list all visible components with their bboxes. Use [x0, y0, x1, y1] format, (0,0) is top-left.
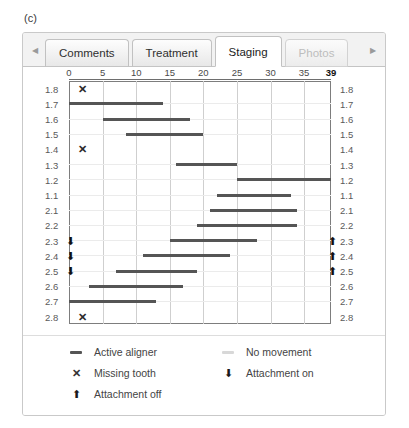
legend-item: Active aligner: [65, 345, 217, 359]
tooth-label-left: 2.7: [45, 296, 58, 307]
tooth-label-right: 1.2: [340, 174, 353, 185]
x-tick-label: 39: [326, 67, 337, 78]
attachment-off-arrow-icon: ⬆: [65, 389, 87, 400]
triangle-left-icon[interactable]: ◀: [25, 34, 45, 66]
x-tick-label: 20: [198, 67, 209, 78]
legend-item: ⬇Attachment on: [217, 366, 369, 380]
legend-item: No movement: [217, 345, 369, 359]
missing-tooth-icon: ✕: [78, 311, 87, 322]
tab-bar: ◀ CommentsTreatmentStagingPhotos ▶: [23, 33, 385, 67]
tooth-label-right: 1.3: [340, 159, 353, 170]
x-tick-label: 15: [164, 67, 175, 78]
active-aligner-bar: [210, 209, 297, 212]
tooth-label-right: 2.4: [340, 250, 353, 261]
tooth-label-right: 2.5: [340, 266, 353, 277]
tab-treatment[interactable]: Treatment: [132, 39, 212, 67]
tab-label: Treatment: [146, 47, 198, 59]
tooth-label-left: 2.6: [45, 281, 58, 292]
tooth-label-left: 2.2: [45, 220, 58, 231]
tooth-label-left: 1.3: [45, 159, 58, 170]
legend-label: Missing tooth: [94, 367, 156, 379]
x-tick-label: 5: [100, 67, 105, 78]
tooth-label-right: 2.3: [340, 235, 353, 246]
x-tick-label: 35: [299, 67, 310, 78]
figure-root: (c) ◀ CommentsTreatmentStagingPhotos ▶ 0…: [0, 0, 409, 428]
tooth-label-left: 1.6: [45, 114, 58, 125]
tooth-label-right: 1.7: [340, 98, 353, 109]
attachment-on-arrow-icon: ⬇: [66, 235, 75, 246]
no-movement-track: [69, 271, 331, 272]
active-aligner-bar: [176, 163, 236, 166]
tooth-label-right: 2.2: [340, 220, 353, 231]
attachment-off-arrow-icon: ⬆: [328, 266, 337, 277]
tab-list: CommentsTreatmentStagingPhotos: [45, 34, 363, 66]
vertical-gridline: [271, 81, 272, 324]
tooth-label-left: 1.8: [45, 83, 58, 94]
active-aligner-swatch-icon: [65, 351, 87, 354]
x-tick-label: 10: [131, 67, 142, 78]
chart-legend: Active alignerNo movement✕Missing tooth⬇…: [23, 335, 385, 413]
active-aligner-bar: [103, 118, 190, 121]
vertical-gridline: [237, 81, 238, 324]
tooth-label-right: 2.6: [340, 281, 353, 292]
legend-label: Active aligner: [94, 346, 157, 358]
missing-tooth-icon: ✕: [78, 83, 87, 94]
tooth-label-left: 1.4: [45, 144, 58, 155]
x-tick-label: 30: [265, 67, 276, 78]
tooth-label-right: 2.7: [340, 296, 353, 307]
active-aligner-bar: [237, 178, 331, 181]
vertical-gridline: [203, 81, 204, 324]
tooth-label-left: 1.2: [45, 174, 58, 185]
tab-comments[interactable]: Comments: [45, 39, 129, 67]
active-aligner-bar: [69, 102, 163, 105]
attachment-off-arrow-icon: ⬆: [328, 235, 337, 246]
tooth-label-left: 2.5: [45, 266, 58, 277]
tab-photos[interactable]: Photos: [285, 39, 349, 67]
tooth-label-left: 1.1: [45, 190, 58, 201]
tab-label: Staging: [229, 46, 268, 58]
tooth-label-left: 1.5: [45, 129, 58, 140]
tooth-label-right: 1.8: [340, 83, 353, 94]
active-aligner-bar: [126, 133, 203, 136]
no-movement-swatch-icon: [217, 351, 239, 354]
tooth-label-left: 2.4: [45, 250, 58, 261]
tooth-label-right: 2.8: [340, 311, 353, 322]
tooth-label-right: 1.6: [340, 114, 353, 125]
vertical-gridline: [304, 81, 305, 324]
tooth-label-right: 1.5: [340, 129, 353, 140]
tooth-label-right: 1.4: [340, 144, 353, 155]
missing-tooth-icon: ✕: [65, 368, 87, 379]
staging-content: 0510152025303539✕1.81.81.71.71.61.61.51.…: [23, 67, 385, 415]
active-aligner-bar: [143, 254, 230, 257]
tooth-label-right: 2.1: [340, 205, 353, 216]
attachment-on-arrow-icon: ⬇: [217, 368, 239, 379]
tooth-label-left: 2.3: [45, 235, 58, 246]
tab-staging[interactable]: Staging: [215, 36, 282, 67]
legend-label: No movement: [246, 346, 311, 358]
legend-item: ✕Missing tooth: [65, 366, 217, 380]
staging-gantt-chart: 0510152025303539✕1.81.81.71.71.61.61.51.…: [23, 67, 385, 335]
tooth-label-left: 1.7: [45, 98, 58, 109]
attachment-on-arrow-icon: ⬇: [66, 266, 75, 277]
x-tick-label: 0: [66, 67, 71, 78]
legend-item: ⬆Attachment off: [65, 387, 217, 401]
tab-label: Comments: [59, 47, 115, 59]
active-aligner-bar: [89, 285, 183, 288]
tab-label: Photos: [299, 47, 335, 59]
triangle-right-icon[interactable]: ▶: [363, 34, 383, 66]
x-tick-label: 25: [232, 67, 243, 78]
tooth-label-left: 2.8: [45, 311, 58, 322]
active-aligner-bar: [116, 270, 197, 273]
figure-caption: (c): [24, 12, 37, 24]
tooth-label-left: 2.1: [45, 205, 58, 216]
legend-label: Attachment on: [246, 367, 314, 379]
active-aligner-bar: [170, 239, 257, 242]
attachment-on-arrow-icon: ⬇: [66, 250, 75, 261]
x-axis-rule: [69, 79, 331, 80]
missing-tooth-icon: ✕: [78, 144, 87, 155]
no-movement-track: [69, 195, 331, 196]
active-aligner-bar: [197, 224, 298, 227]
active-aligner-bar: [217, 194, 291, 197]
attachment-off-arrow-icon: ⬆: [328, 250, 337, 261]
active-aligner-bar: [69, 300, 156, 303]
